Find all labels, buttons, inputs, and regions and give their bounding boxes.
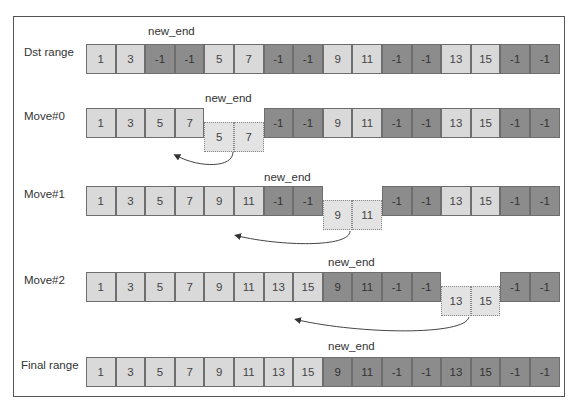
move0-arrow-icon [177, 152, 233, 165]
move2-arrow-icon [298, 317, 469, 331]
move1-arrow-icon [238, 231, 350, 244]
move-arrows [0, 0, 577, 413]
